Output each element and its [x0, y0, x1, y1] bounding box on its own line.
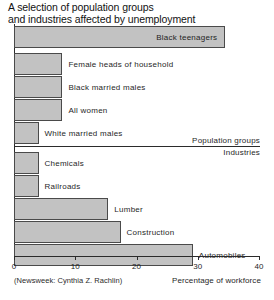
- bar-row: Railroads: [0, 175, 274, 197]
- x-tick: [75, 256, 76, 260]
- bar: [14, 122, 39, 144]
- x-axis: 010203040 (Newsweek: Cynthia Z. Rachlin)…: [0, 256, 274, 300]
- bar: [14, 198, 108, 220]
- chart-title: A selection of population groups and ind…: [8, 2, 258, 25]
- bar: [14, 175, 39, 197]
- bar-label: Railroads: [45, 182, 81, 191]
- bar-label: Chemicals: [45, 159, 85, 168]
- bar-row: All women: [0, 99, 274, 121]
- x-axis-title: Percentage of workforce: [172, 276, 261, 285]
- x-tick: [259, 256, 260, 260]
- section-divider: [14, 146, 260, 147]
- bar: [14, 99, 62, 121]
- bar-label: All women: [68, 106, 107, 115]
- bar-label: Black married males: [68, 83, 145, 92]
- bar-label: Female heads of household: [68, 60, 173, 69]
- source-credit: (Newsweek: Cynthia Z. Rachlin): [14, 276, 122, 285]
- bar-row: Female heads of household: [0, 53, 274, 75]
- bar-label: White married males: [45, 129, 123, 138]
- x-tick-label: 30: [193, 262, 202, 271]
- bar-label: Lumber: [114, 205, 143, 214]
- bar-row: Lumber: [0, 198, 274, 220]
- bar: [14, 76, 62, 98]
- bar-row: Construction: [0, 221, 274, 243]
- x-tick-label: 10: [71, 262, 80, 271]
- bar-row: Black teenagers: [0, 26, 274, 48]
- chart-title-line-1: A selection of population groups: [8, 2, 258, 14]
- bar: [14, 53, 62, 75]
- bar-label: Black teenagers: [156, 33, 217, 42]
- bar: [14, 221, 121, 243]
- x-tick-label: 40: [255, 262, 264, 271]
- bar-label: Construction: [127, 228, 175, 237]
- x-tick: [198, 256, 199, 260]
- section-label-industries: Industries: [223, 148, 260, 157]
- section-label-population-groups: Population groups: [192, 136, 260, 145]
- x-tick: [137, 256, 138, 260]
- bar: [14, 152, 39, 174]
- unemployment-bar-chart: A selection of population groups and ind…: [0, 0, 274, 300]
- x-tick: [14, 256, 15, 260]
- x-tick-label: 0: [12, 262, 16, 271]
- bar-row: Black married males: [0, 76, 274, 98]
- plot-area: Black teenagersFemale heads of household…: [0, 24, 274, 256]
- x-tick-label: 20: [132, 262, 141, 271]
